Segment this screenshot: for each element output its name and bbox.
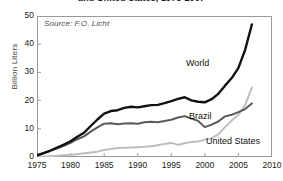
x-axis-tick-labels: 19751980198519901995200020052010 [0, 160, 283, 174]
x-tick-label: 2010 [252, 160, 283, 170]
source-note: Source: F.O. Licht [44, 19, 109, 28]
series-label-united-states: United States [206, 136, 260, 146]
series-label-world: World [186, 58, 209, 68]
ethanol-production-chart: and United States, 1975-2007 Billion Lit… [0, 0, 283, 181]
y-tick-label: 30 [4, 66, 34, 76]
y-tick-label: 50 [4, 10, 34, 20]
chart-title: and United States, 1975-2007 [0, 0, 283, 3]
y-axis-tick-labels: 01020304050 [0, 0, 34, 181]
y-tick-label: 10 [4, 123, 34, 133]
series-label-brazil: Brazil [189, 111, 212, 121]
y-tick-label: 40 [4, 38, 34, 48]
y-tick-label: 20 [4, 95, 34, 105]
